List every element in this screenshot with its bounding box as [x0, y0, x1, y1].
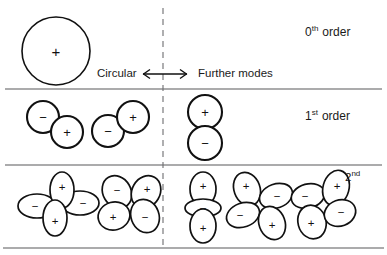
label-further-modes: Further modes [198, 68, 273, 80]
double-arrow-icon [143, 70, 187, 79]
lobe-sign: − [201, 136, 209, 151]
mode-triple-lobe-vertical: + − + [185, 172, 221, 243]
order-1-word: order [322, 109, 350, 123]
lobe-sign: + [334, 180, 341, 192]
lobe-sign: + [144, 183, 151, 195]
lobe-sign: − [302, 190, 309, 202]
mode-shape-figure: + − + − + + − [0, 0, 387, 255]
lobe-sign: − [32, 200, 39, 212]
lobe-sign: − [200, 202, 207, 214]
order-0-suffix: th [312, 24, 319, 33]
lobe-sign: + [200, 180, 207, 192]
lobe-sign: − [142, 211, 149, 223]
label-order-1: 1storder [305, 110, 350, 122]
lobe-sign: + [200, 222, 207, 234]
label-order-0: 0thorder [305, 26, 350, 38]
mode-dipole-diagonal-b: − + [92, 101, 149, 147]
lobe-sign: − [80, 197, 87, 209]
lobe-sign: − [274, 190, 281, 202]
mode-dipole-vertical: + − [188, 95, 222, 160]
lobe-sign: − [104, 124, 112, 139]
order-2-suffix: nd [351, 169, 360, 178]
lobe-sign: + [308, 217, 315, 229]
lobe-sign: + [110, 211, 117, 223]
lobe-sign: + [129, 110, 137, 125]
lobe-sign: − [237, 209, 244, 221]
lobe-sign: + [243, 180, 250, 192]
label-circular: Circular [97, 68, 137, 80]
lobe-sign: + [201, 105, 209, 120]
lobe-sign: + [52, 43, 61, 60]
order-1-suffix: st [312, 108, 318, 117]
lobe-sign: + [59, 181, 66, 193]
lobe-sign: − [114, 184, 121, 196]
lobe-sign: − [338, 206, 345, 218]
mode-quadrupole-cross: − + + − [18, 172, 99, 236]
lobe-sign: − [39, 110, 47, 125]
label-order-2: 2nd [345, 172, 360, 184]
lobe-sign: + [63, 125, 71, 140]
order-0-number: 0 [305, 25, 312, 39]
order-0-word: order [322, 25, 350, 39]
mode-dipole-diagonal-a: − + [27, 101, 83, 148]
order-1-number: 1 [305, 109, 312, 123]
mode-quadrupole-diagonal: − + + − [95, 170, 167, 236]
mode-circular-mode: + [22, 17, 90, 85]
mode-quadrupole-tilted-a: + − − + [223, 169, 296, 244]
lobe-sign: + [269, 219, 276, 231]
lobe-sign: + [52, 215, 59, 227]
